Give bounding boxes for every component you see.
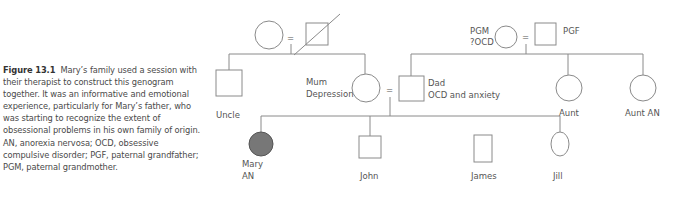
- aunt-label: Aunt: [559, 108, 580, 118]
- aunt-symbol: [556, 75, 582, 101]
- uncle-label: Uncle: [216, 110, 240, 120]
- mum-symbol: [352, 74, 380, 102]
- deceased-slash: [294, 14, 340, 55]
- parents-marriage-symbol: =: [386, 85, 393, 95]
- pgf-symbol: [535, 23, 556, 45]
- paternal-marriage-symbol: =: [522, 32, 529, 42]
- dad-label: Dad: [428, 78, 445, 88]
- pgm-label: PGM: [470, 26, 489, 36]
- jill-label: Jill: [552, 171, 563, 181]
- dad-condition: OCD and anxiety: [428, 90, 500, 100]
- dad-symbol: [399, 76, 424, 101]
- aunt-an-symbol: [630, 75, 656, 101]
- pgf-label: PGF: [563, 26, 580, 36]
- mary-label: Mary: [242, 159, 263, 169]
- uncle-symbol: [216, 70, 242, 96]
- genogram-diagram: = Uncle Mum Depression = Dad OCD and anx…: [0, 0, 689, 200]
- james-label: James: [470, 171, 497, 181]
- james-symbol: [474, 135, 492, 162]
- john-symbol: [359, 136, 381, 158]
- maternal-marriage-symbol: =: [287, 33, 294, 43]
- mary-symbol-affected: [249, 132, 273, 156]
- maternal-grandmother-symbol: [255, 21, 283, 49]
- pgm-condition: ?OCD: [470, 37, 494, 47]
- mum-condition: Depression: [306, 89, 354, 99]
- mum-label: Mum: [306, 77, 327, 87]
- mary-condition: AN: [242, 171, 254, 181]
- aunt-an-label: Aunt AN: [625, 108, 660, 118]
- pgm-symbol: [495, 26, 517, 48]
- jill-symbol: [551, 132, 569, 156]
- john-label: John: [359, 171, 378, 181]
